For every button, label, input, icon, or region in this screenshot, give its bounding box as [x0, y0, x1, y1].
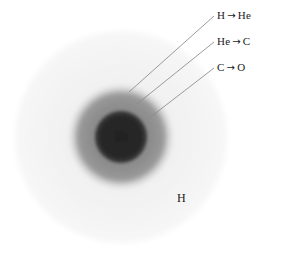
label-c-o-product: O: [237, 61, 245, 73]
label-hydrogen-to-helium: H→He: [217, 10, 251, 21]
layer-carbon-oxygen-core: [95, 111, 148, 164]
label-he-c-product: C: [243, 35, 251, 47]
label-h-he-product: He: [238, 9, 251, 21]
label-helium-to-carbon: He→C: [217, 36, 250, 47]
label-carbon-to-oxygen: C→O: [217, 62, 245, 73]
arrow-icon: →: [227, 62, 236, 73]
label-h-he-reactant: H: [217, 9, 225, 21]
label-he-c-reactant: He: [217, 35, 230, 47]
arrow-icon: →: [232, 36, 241, 47]
label-hydrogen-envelope: H: [177, 192, 186, 204]
label-c-o-reactant: C: [217, 61, 225, 73]
arrow-icon: →: [227, 10, 236, 21]
